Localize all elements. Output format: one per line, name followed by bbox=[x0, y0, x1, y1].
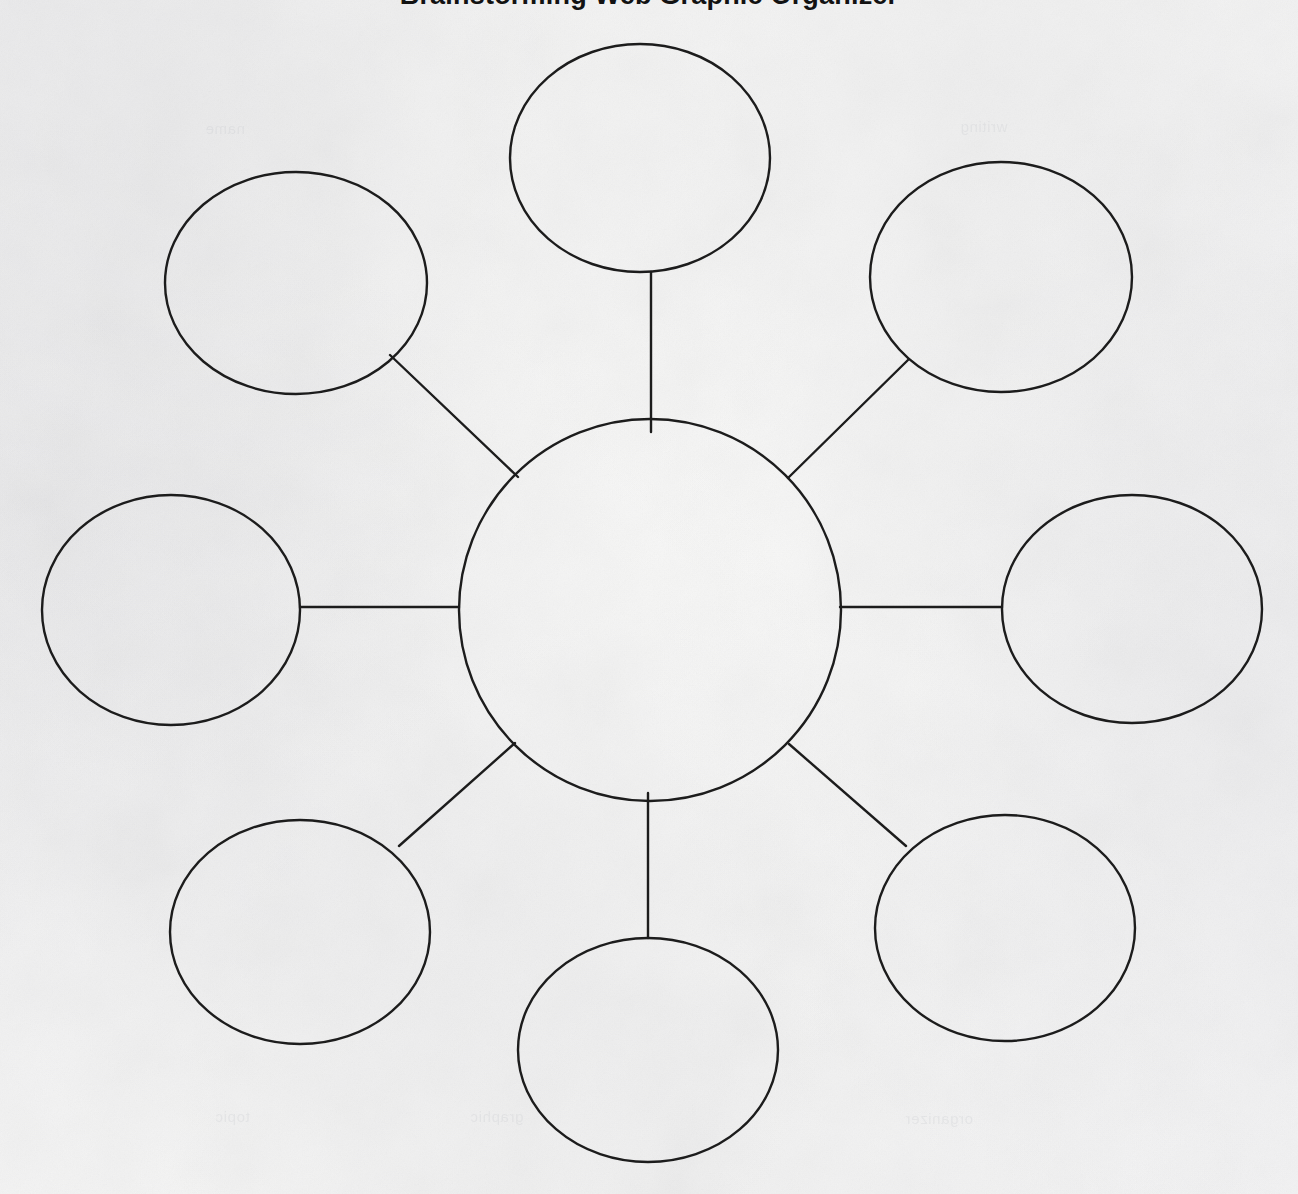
outer-circle-right[interactable] bbox=[1002, 495, 1262, 723]
connector-group bbox=[300, 272, 1002, 938]
outer-circle-bottom-right[interactable] bbox=[875, 815, 1135, 1041]
web-diagram bbox=[0, 0, 1298, 1194]
outer-node-group bbox=[42, 44, 1262, 1162]
worksheet-page: writing name graphic organizer topic Bra… bbox=[0, 0, 1298, 1194]
connector-line-bottom-left bbox=[399, 743, 515, 846]
outer-circle-top-left[interactable] bbox=[165, 172, 427, 394]
outer-circle-bottom-left[interactable] bbox=[170, 820, 430, 1044]
outer-circle-top[interactable] bbox=[510, 44, 770, 272]
connector-line-bottom-right bbox=[789, 744, 906, 846]
connector-line-top-left bbox=[390, 355, 518, 477]
outer-circle-left[interactable] bbox=[42, 495, 300, 725]
outer-circle-bottom[interactable] bbox=[518, 938, 778, 1162]
connector-line-top-right bbox=[788, 360, 908, 478]
outer-circle-top-right[interactable] bbox=[870, 162, 1132, 392]
